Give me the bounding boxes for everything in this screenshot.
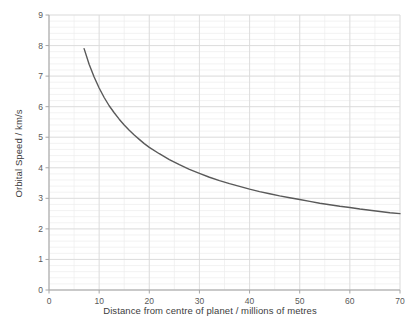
chart-container: 010203040506070 0123456789 Distance from… [0, 0, 420, 326]
y-tick-label: 5 [23, 132, 43, 142]
y-tick-label: 8 [23, 41, 43, 51]
y-tick-label: 6 [23, 102, 43, 112]
y-tick-label: 9 [23, 10, 43, 20]
plot-area [0, 0, 420, 326]
y-tick-label: 2 [23, 224, 43, 234]
minor-gridlines [49, 15, 400, 290]
y-axis-title: Orbital Speed / km/s [13, 74, 24, 234]
y-tick-label: 1 [23, 254, 43, 264]
y-tick-label: 0 [23, 285, 43, 295]
axis-tickmarks [46, 15, 401, 294]
y-tick-label: 3 [23, 193, 43, 203]
y-tick-label: 7 [23, 71, 43, 81]
x-axis-title: Distance from centre of planet / million… [0, 305, 420, 316]
y-tick-label: 4 [23, 163, 43, 173]
